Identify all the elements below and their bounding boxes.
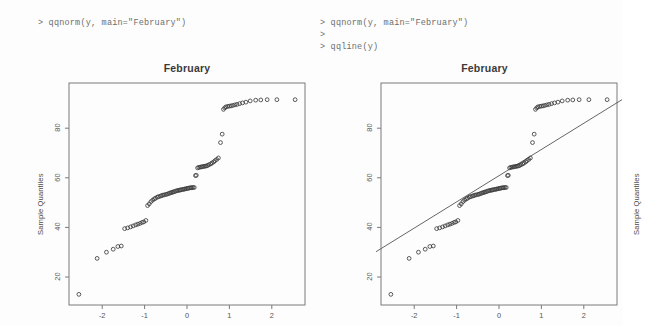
data-point [275,98,279,102]
data-point [95,257,99,261]
data-point [560,99,564,103]
data-point [77,292,81,296]
data-point [105,250,109,254]
qqplot-canvas-left [0,0,311,326]
x-tick-label: 0 [178,311,196,320]
x-tick-label: 0 [490,311,508,320]
qqplot-canvas-right [312,0,623,326]
qqline [376,100,622,252]
data-point [577,98,581,102]
x-tick-label: -2 [93,311,111,320]
y-tick-label: 20 [53,269,62,285]
data-point [220,132,224,136]
data-point [219,141,223,145]
data-point [293,98,297,102]
y-tick-label: 20 [365,269,374,285]
data-point [407,257,411,261]
y-tick-label: 60 [53,169,62,185]
data-points [389,98,609,296]
data-point [417,250,421,254]
y-tick-label: 80 [53,120,62,136]
x-tick-label: 2 [575,311,593,320]
data-point [111,247,115,251]
data-point [532,132,536,136]
data-point [259,98,263,102]
data-point [254,98,258,102]
data-point [571,98,575,102]
y-tick-label: 60 [365,169,374,185]
x-tick-label: 1 [220,311,238,320]
y-tick-label: 80 [365,120,374,136]
data-point [587,98,591,102]
x-tick-label: -1 [448,311,466,320]
qqplot-panel-left: February Sample Quantiles -2-10122040608… [0,0,311,326]
y-tick-label: 40 [365,219,374,235]
y-axis-label-right: Sample Quantiles [632,173,641,235]
data-point [423,247,427,251]
plot-frame [381,83,617,305]
plot-frame [69,83,305,305]
x-tick-label: -2 [405,311,423,320]
x-tick-label: -1 [136,311,154,320]
x-tick-label: 1 [532,311,550,320]
qqplot-panel-right: February Sample Quantiles -2-10122040608… [312,0,623,326]
x-tick-label: 2 [263,311,281,320]
data-point [605,98,609,102]
data-point [265,98,269,102]
data-point [389,292,393,296]
y-tick-label: 40 [53,219,62,235]
data-point [531,141,535,145]
data-point [566,98,570,102]
data-points [77,98,297,296]
data-point [248,99,252,103]
